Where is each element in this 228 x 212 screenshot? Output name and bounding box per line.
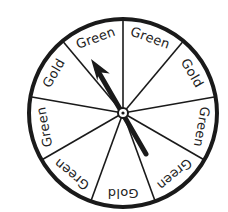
spinner-diagram: GreenGoldGreenGreenGoldGreenGreenGoldGre… [0,0,228,212]
section-label: Gold [107,186,138,201]
divider-line [42,113,123,160]
section-label: Green [191,105,213,148]
spinner-arrow-icon[interactable] [91,59,146,154]
section-label: Green [154,155,195,193]
spinner-hub-dot [121,111,124,114]
section-label: Green [33,105,55,148]
section-label: Green [51,155,92,193]
divider-line [123,41,183,113]
